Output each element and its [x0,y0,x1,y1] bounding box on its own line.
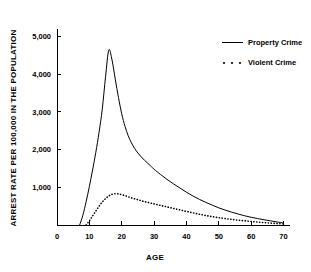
legend-label-property-crime: Property Crime [248,38,302,47]
x-tick-label-20: 20 [118,232,126,241]
x-tick-label-10: 10 [85,232,93,241]
x-tick-label-60: 60 [247,232,255,241]
y-axis-tick-labels: 1,0002,0003,0004,0005,000 [32,32,51,192]
x-tick-label-0: 0 [55,232,59,241]
x-tick-label-70: 70 [279,232,287,241]
chart-legend: Property Crime Violent Crime [222,38,302,68]
series-line-violent-crime [86,194,283,225]
x-axis-ticks [57,221,284,225]
legend-dotted-line-icon [223,62,241,64]
y-tick-label-5000: 5,000 [32,32,51,41]
x-tick-label-30: 30 [150,232,158,241]
chart-canvas: 010203040506070 1,0002,0003,0004,0005,00… [0,0,311,272]
x-tick-label-40: 40 [182,232,190,241]
x-axis-tick-labels: 010203040506070 [55,232,288,241]
data-series-group [80,50,284,225]
y-axis-ticks [57,37,61,188]
legend-entry-violent-crime: Violent Crime [223,58,296,67]
x-tick-label-50: 50 [215,232,223,241]
series-line-property-crime [80,50,284,225]
y-tick-label-2000: 2,000 [32,145,51,154]
y-tick-label-4000: 4,000 [32,70,51,79]
x-axis-title: AGE [146,253,164,262]
y-tick-label-1000: 1,000 [32,183,51,192]
y-axis-title: ARREST RATE PER 100,000 IN THE POPULATIO… [9,30,18,227]
legend-entry-property-crime: Property Crime [222,38,302,47]
y-tick-label-3000: 3,000 [32,108,51,117]
legend-label-violent-crime: Violent Crime [248,58,296,67]
arrest-rate-by-age-chart: 010203040506070 1,0002,0003,0004,0005,00… [0,0,311,272]
